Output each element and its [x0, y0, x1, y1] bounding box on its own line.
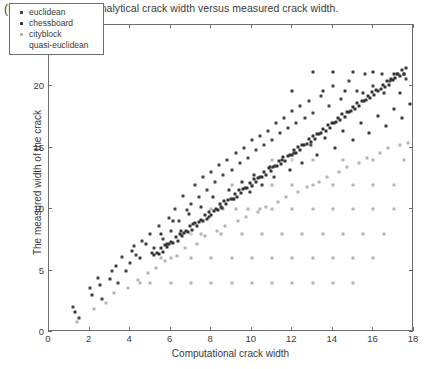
scatter-point [216, 230, 219, 233]
scatter-point [392, 85, 395, 88]
scatter-point [198, 195, 201, 198]
scatter-point [187, 213, 190, 216]
scatter-point [174, 236, 177, 239]
legend-item-cityblock[interactable]: cityblock [10, 29, 103, 40]
scatter-point [356, 90, 359, 93]
x-tick-top [170, 24, 171, 28]
x-tick [170, 327, 171, 331]
scatter-point [175, 254, 178, 257]
scatter-point [337, 171, 340, 174]
scatter-point [206, 188, 209, 191]
scatter-point [372, 70, 375, 73]
scatter-point [189, 281, 192, 284]
scatter-point [331, 129, 334, 132]
scatter-point [372, 100, 375, 103]
x-tick [210, 327, 211, 331]
scatter-point [112, 291, 115, 294]
scatter-point [317, 181, 320, 184]
scatter-point [169, 247, 172, 250]
scatter-point [295, 122, 298, 125]
scatter-point [385, 79, 388, 82]
x-tick-label: 8 [208, 333, 213, 344]
scatter-point [297, 191, 300, 194]
legend-item-euclidean[interactable]: euclidean [10, 7, 103, 18]
scatter-point [169, 281, 172, 284]
y-axis-title: The measured width of the crack [32, 83, 43, 283]
legend-item-quasi-euclidean[interactable]: quasi-euclidean [10, 40, 103, 51]
scatter-point [271, 281, 274, 284]
scatter-point [76, 321, 79, 324]
scatter-point [133, 245, 136, 248]
scatter-point [346, 166, 349, 169]
scatter-point [169, 257, 172, 260]
scatter-point [145, 242, 148, 245]
scatter-point [311, 281, 314, 284]
y-tick-right [409, 24, 413, 25]
scatter-point [311, 70, 314, 73]
scatter-point [340, 97, 343, 100]
scatter-point [210, 218, 213, 221]
scatter-point [230, 257, 233, 260]
scatter-point [121, 256, 124, 259]
legend-label: chessboard [29, 18, 73, 29]
scatter-point [127, 286, 130, 289]
scatter-point [157, 253, 160, 256]
scatter-point [90, 294, 93, 297]
x-tick-label: 10 [245, 333, 256, 344]
scatter-point [234, 208, 237, 211]
scatter-point [210, 213, 213, 216]
scatter-point [194, 183, 197, 186]
scatter-point [202, 220, 205, 223]
scatter-point [342, 232, 345, 235]
scatter-point [159, 257, 162, 260]
scatter-point [269, 170, 272, 173]
scatter-point [221, 207, 224, 210]
scatter-point [341, 112, 344, 115]
x-tick [372, 327, 373, 331]
scatter-point [343, 116, 346, 119]
scatter-point [315, 154, 318, 157]
scatter-point [327, 105, 330, 108]
scatter-point [141, 240, 144, 243]
scatter-point [212, 195, 215, 198]
scatter-point [260, 183, 263, 186]
scatter-point [108, 278, 111, 281]
scatter-point [371, 90, 374, 93]
scatter-point [362, 232, 365, 235]
x-tick-top [372, 24, 373, 28]
scatter-point [139, 257, 142, 260]
scatter-point [404, 78, 407, 81]
scatter-point [210, 257, 213, 260]
scatter-point [342, 159, 345, 162]
scatter-point [196, 242, 199, 245]
scatter-point [129, 262, 132, 265]
scatter-point [279, 132, 282, 135]
scatter-point [234, 151, 237, 154]
legend-label: euclidean [29, 7, 65, 18]
scatter-point [235, 196, 238, 199]
scatter-point [291, 90, 294, 93]
legend-item-chessboard[interactable]: chessboard [10, 18, 103, 29]
scatter-point [163, 259, 166, 262]
scatter-point [352, 208, 355, 211]
scatter-point [333, 146, 336, 149]
scatter-point [376, 114, 379, 117]
scatter-point [189, 203, 192, 206]
scatter-point [307, 100, 310, 103]
y-tick [48, 147, 52, 148]
legend-marker-icon [16, 33, 26, 36]
scatter-point [400, 69, 403, 72]
scatter-point [262, 144, 265, 147]
plot-area [48, 24, 413, 331]
scatter-point [342, 129, 345, 132]
scatter-point [191, 228, 194, 231]
scatter-point [258, 134, 261, 137]
scatter-point [224, 225, 227, 228]
scatter-point [366, 156, 369, 159]
scatter-points-layer [49, 25, 412, 330]
scatter-point [240, 232, 243, 235]
scatter-point [96, 276, 99, 279]
scatter-point [383, 86, 386, 89]
scatter-point [74, 311, 77, 314]
y-tick-right [409, 208, 413, 209]
